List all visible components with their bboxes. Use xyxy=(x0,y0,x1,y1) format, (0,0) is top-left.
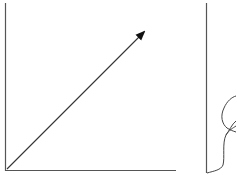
left-panel xyxy=(5,3,176,171)
loop-curve xyxy=(207,96,236,173)
vector-arrow xyxy=(7,32,144,169)
right-panel xyxy=(207,3,237,173)
diagram-canvas xyxy=(0,0,236,175)
